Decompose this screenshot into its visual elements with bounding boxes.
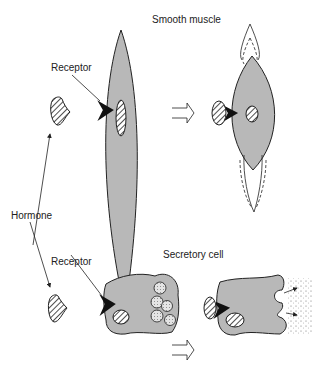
secretory-cell-active — [204, 275, 312, 335]
smooth-muscle-label: Smooth muscle — [152, 14, 221, 25]
nucleus — [116, 100, 126, 136]
hormone-pointer-down — [30, 222, 50, 287]
secretory-cell-label: Secretory cell — [163, 249, 224, 260]
receptor-label-top: Receptor — [51, 62, 92, 73]
hormone-molecule-bottom — [48, 295, 67, 322]
receptor-label-bottom: Receptor — [51, 256, 92, 267]
smooth-muscle-cell-contracted — [212, 24, 275, 212]
receptor-pointer-top — [72, 75, 100, 101]
nucleus — [113, 310, 129, 324]
hormone-pointer-up — [33, 134, 50, 245]
hormone-label: Hormone — [11, 210, 52, 221]
hormone-molecule-top — [51, 97, 70, 125]
transition-arrow-top — [172, 103, 194, 123]
smooth-muscle-cell-relaxed — [106, 30, 138, 310]
hormone-receptor-diagram — [0, 0, 318, 371]
transition-arrow-bottom — [172, 340, 194, 360]
